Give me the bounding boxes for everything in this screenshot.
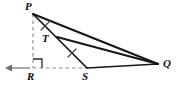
- solid-segments: [33, 14, 158, 68]
- segment-SQ: [87, 64, 158, 68]
- vertex-label-T: T: [42, 33, 49, 44]
- vertex-label-S: S: [82, 71, 88, 82]
- right-angle-icon: [33, 59, 42, 68]
- geometry-figure: P T R S Q: [0, 0, 180, 89]
- vertex-label-R: R: [27, 71, 34, 82]
- segment-TQ: [57, 37, 158, 64]
- left-ray-arrow-head: [5, 65, 12, 72]
- segment-PQ: [33, 14, 158, 64]
- vertex-label-P: P: [25, 1, 32, 12]
- vertex-label-Q: Q: [163, 58, 171, 69]
